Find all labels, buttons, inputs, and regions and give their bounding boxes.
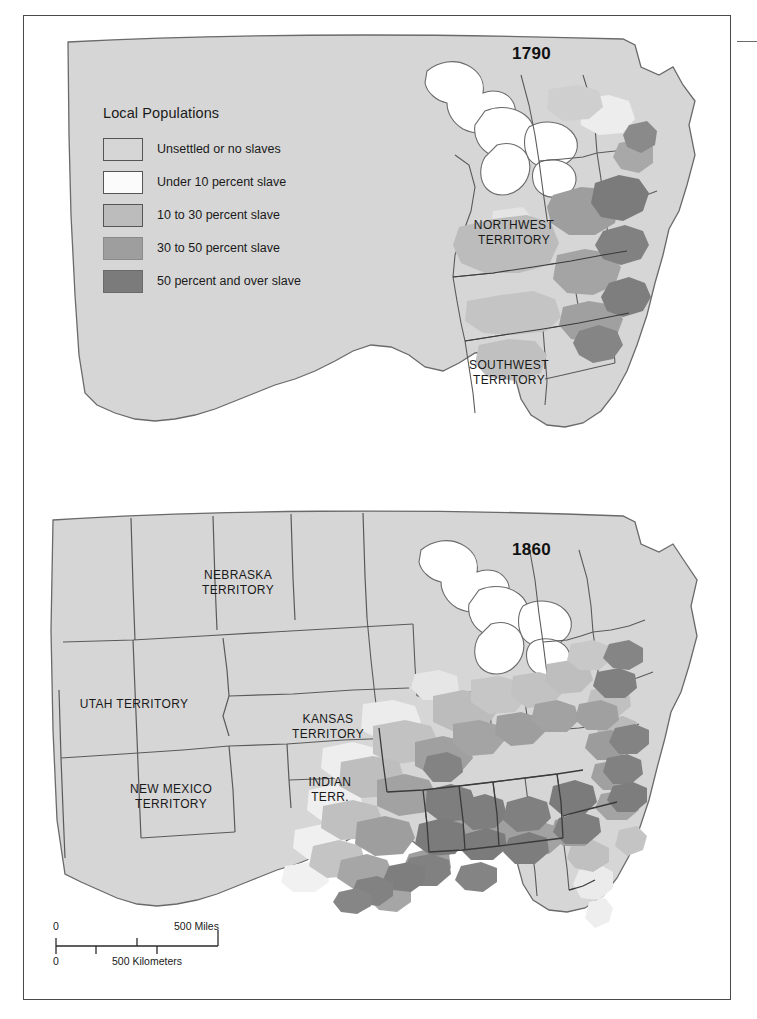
scale-bar: 0 500 Miles 0 500 Kilometers (52, 920, 272, 975)
legend-item-unsettled: Unsettled or no slaves (103, 134, 363, 164)
label-line-1: KANSAS (273, 712, 383, 727)
year-label-1790: 1790 (512, 44, 551, 64)
map-label-indian-territory: INDIAN TERR. (285, 775, 375, 804)
legend-item-50-over: 50 percent and over slave (103, 266, 363, 296)
map-label-new-mexico-territory: NEW MEXICO TERRITORY (106, 782, 236, 811)
map-label-utah-territory: UTAH TERRITORY (64, 697, 204, 712)
legend: Local Populations Unsettled or no slaves… (103, 105, 363, 299)
label-line-2: TERRITORY (183, 583, 293, 598)
label-line-2: TERRITORY (106, 797, 236, 812)
legend-label-unsettled: Unsettled or no slaves (157, 142, 281, 156)
map-label-kansas-territory: KANSAS TERRITORY (273, 712, 383, 741)
map-label-southwest-territory: SOUTHWEST TERRITORY (454, 358, 564, 387)
legend-item-30-50: 30 to 50 percent slave (103, 233, 363, 263)
label-line-1: INDIAN (285, 775, 375, 790)
legend-item-10-30: 10 to 30 percent slave (103, 200, 363, 230)
legend-swatch-unsettled (103, 138, 143, 161)
scale-miles-zero: 0 (53, 920, 59, 932)
scale-kilometers-max: 500 Kilometers (112, 955, 182, 967)
label-line-1: SOUTHWEST (454, 358, 564, 373)
legend-swatch-10-30 (103, 204, 143, 227)
map-label-northwest-territory: NORTHWEST TERRITORY (459, 218, 569, 247)
frame-tick-mark (737, 41, 757, 42)
label-line-1: UTAH TERRITORY (64, 697, 204, 712)
legend-swatch-30-50 (103, 237, 143, 260)
legend-title: Local Populations (103, 105, 363, 121)
label-line-2: TERR. (285, 790, 375, 805)
legend-swatch-50-over (103, 270, 143, 293)
label-line-1: NEBRASKA (183, 568, 293, 583)
legend-label-under-10: Under 10 percent slave (157, 175, 286, 189)
figure-page: NORTHWEST TERRITORY SOUTHWEST TERRITORY (0, 0, 757, 1019)
legend-label-50-over: 50 percent and over slave (157, 274, 301, 288)
legend-label-30-50: 30 to 50 percent slave (157, 241, 280, 255)
label-line-2: TERRITORY (454, 373, 564, 388)
label-line-2: TERRITORY (459, 233, 569, 248)
legend-item-under-10: Under 10 percent slave (103, 167, 363, 197)
year-label-1860: 1860 (512, 540, 551, 560)
map-label-nebraska-territory: NEBRASKA TERRITORY (183, 568, 293, 597)
label-line-1: NORTHWEST (459, 218, 569, 233)
legend-swatch-under-10 (103, 171, 143, 194)
label-line-1: NEW MEXICO (106, 782, 236, 797)
legend-label-10-30: 10 to 30 percent slave (157, 208, 280, 222)
label-line-2: TERRITORY (273, 727, 383, 742)
scale-miles-max: 500 Miles (174, 920, 219, 932)
scale-kilometers-zero: 0 (53, 955, 59, 967)
